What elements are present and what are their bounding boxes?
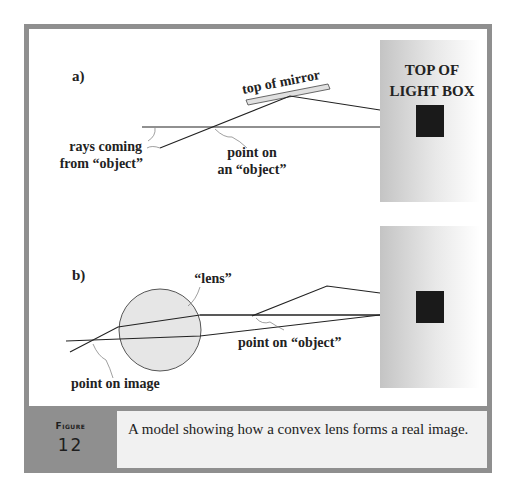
lightbox-label-2: LIGHT BOX xyxy=(389,83,474,99)
leader-rays-2 xyxy=(147,147,160,149)
figure-caption: A model showing how a convex lens forms … xyxy=(117,411,487,468)
object-square-a xyxy=(416,105,444,137)
figure-number: 12 xyxy=(29,435,112,455)
figure-word: Figure xyxy=(29,421,112,431)
lightbox-label-1: TOP OF xyxy=(405,62,459,78)
ray-b-3 xyxy=(252,286,380,316)
object-square-b xyxy=(416,291,444,323)
caption-row: Figure 12 A model showing how a convex l… xyxy=(29,411,487,468)
panel-a-tag: a) xyxy=(72,68,85,85)
image-point-label: point on image xyxy=(71,376,160,391)
ray-reflected-a xyxy=(160,96,380,148)
leader-image-point xyxy=(93,344,113,378)
object-point-label: point on “object” xyxy=(238,335,341,350)
lens-label: “lens” xyxy=(194,271,231,286)
point-label-a-1: point on xyxy=(227,145,277,160)
leader-rays xyxy=(148,128,155,141)
panel-a: TOP OF LIGHT BOX a) top of mirror rays c… xyxy=(60,40,480,202)
panel-b: b) “lens” point on image point on “objec… xyxy=(66,226,480,391)
figure-label: Figure 12 xyxy=(29,411,112,468)
lens xyxy=(119,289,201,371)
point-label-a-2: an “object” xyxy=(218,162,287,177)
rays-label-2: from “object” xyxy=(60,156,143,171)
panel-b-tag: b) xyxy=(72,267,85,284)
rays-label-1: rays coming xyxy=(69,139,142,154)
